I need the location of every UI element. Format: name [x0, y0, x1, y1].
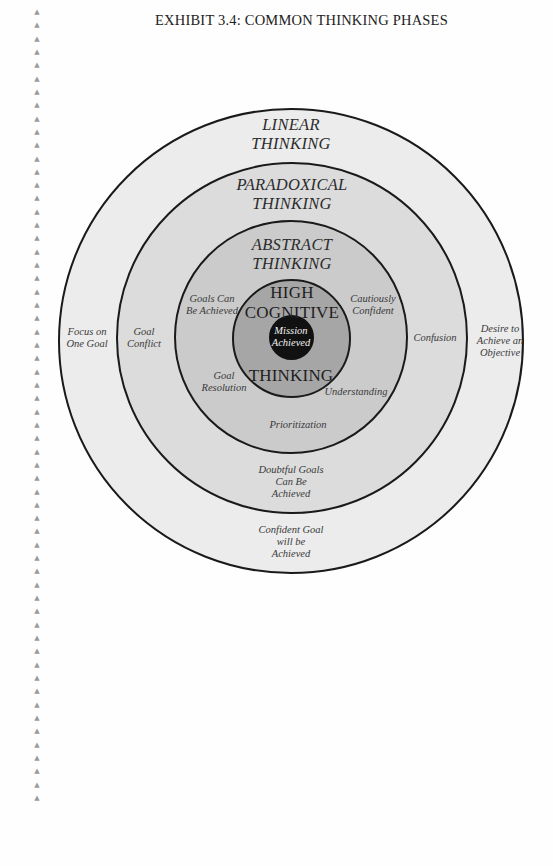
margin-marker-icon: ▲ [33, 727, 41, 735]
margin-marker-icon: ▲ [33, 261, 41, 269]
margin-marker-icon: ▲ [33, 248, 41, 256]
margin-marker-icon: ▲ [33, 115, 41, 123]
margin-marker-icon: ▲ [33, 674, 41, 682]
label-focus-on-one-goal: Focus on One Goal [66, 326, 107, 350]
margin-marker-icon: ▲ [33, 221, 41, 229]
document-page: ▲▲▲▲▲▲▲▲▲▲▲▲▲▲▲▲▲▲▲▲▲▲▲▲▲▲▲▲▲▲▲▲▲▲▲▲▲▲▲▲… [0, 0, 553, 866]
label-high-cognitive: HIGH COGNITIVE [245, 283, 339, 322]
margin-marker-icon: ▲ [33, 381, 41, 389]
margin-marker-icon: ▲ [33, 328, 41, 336]
label-doubtful-goals: Doubtful Goals Can Be Achieved [258, 464, 323, 500]
margin-marker-icon: ▲ [33, 61, 41, 69]
margin-marker-icon: ▲ [33, 794, 41, 802]
margin-marker-icon: ▲ [33, 75, 41, 83]
margin-marker-icon: ▲ [33, 514, 41, 522]
margin-marker-icon: ▲ [33, 88, 41, 96]
margin-marker-icon: ▲ [33, 128, 41, 136]
label-prioritization: Prioritization [269, 419, 326, 431]
margin-marker-icon: ▲ [33, 634, 41, 642]
margin-marker-icon: ▲ [33, 35, 41, 43]
margin-marker-icon: ▲ [33, 341, 41, 349]
margin-marker-icon: ▲ [33, 208, 41, 216]
label-goals-can-be-achieved: Goals Can Be Achieved [186, 293, 238, 317]
margin-marker-icon: ▲ [33, 408, 41, 416]
margin-marker-icon: ▲ [33, 301, 41, 309]
label-thinking-inner: THINKING [249, 366, 334, 386]
label-goal-conflict: Goal Conflict [127, 326, 161, 350]
margin-marker-icon: ▲ [33, 754, 41, 762]
margin-marker-icon: ▲ [33, 314, 41, 322]
margin-marker-icon: ▲ [33, 607, 41, 615]
margin-marker-icon: ▲ [33, 567, 41, 575]
label-mission-achieved: Mission Achieved [272, 325, 310, 349]
margin-marker-icon: ▲ [33, 448, 41, 456]
label-cautiously-confident: Cautiously Confident [350, 293, 396, 317]
margin-marker-icon: ▲ [33, 155, 41, 163]
label-confusion: Confusion [413, 332, 456, 344]
margin-marker-icon: ▲ [33, 687, 41, 695]
margin-marker-icon: ▲ [33, 767, 41, 775]
margin-marker-icon: ▲ [33, 701, 41, 709]
margin-marker-icon: ▲ [33, 421, 41, 429]
label-linear-thinking: LINEAR THINKING [251, 116, 330, 154]
margin-marker-icon: ▲ [33, 594, 41, 602]
margin-marker-icon: ▲ [33, 434, 41, 442]
margin-marker-icon: ▲ [33, 621, 41, 629]
margin-marker-icon: ▲ [33, 354, 41, 362]
margin-marker-icon: ▲ [33, 168, 41, 176]
margin-marker-icon: ▲ [33, 194, 41, 202]
margin-marker-icon: ▲ [33, 141, 41, 149]
margin-marker-icon: ▲ [33, 274, 41, 282]
margin-marker-icon: ▲ [33, 647, 41, 655]
margin-marker-icon: ▲ [33, 394, 41, 402]
margin-marker-icon: ▲ [33, 474, 41, 482]
label-desire-to-achieve: Desire to Achieve an Objective [477, 323, 523, 359]
margin-marker-icon: ▲ [33, 714, 41, 722]
margin-marker-icon: ▲ [33, 488, 41, 496]
label-understanding: Understanding [325, 386, 388, 398]
margin-marker-icon: ▲ [33, 368, 41, 376]
label-abstract-thinking: ABSTRACT THINKING [252, 236, 332, 274]
margin-marker-icon: ▲ [33, 581, 41, 589]
margin-marker-icon: ▲ [33, 527, 41, 535]
margin-marker-icon: ▲ [33, 234, 41, 242]
label-confident-goal-achieved: Confident Goal will be Achieved [258, 524, 323, 560]
margin-marker-icon: ▲ [33, 48, 41, 56]
label-goal-resolution: Goal Resolution [202, 370, 247, 394]
margin-marker-icon: ▲ [33, 741, 41, 749]
margin-marker-icon: ▲ [33, 501, 41, 509]
margin-marker-icon: ▲ [33, 181, 41, 189]
margin-marker-icon: ▲ [33, 101, 41, 109]
margin-marker-icon: ▲ [33, 661, 41, 669]
margin-marker-icon: ▲ [33, 461, 41, 469]
exhibit-title: EXHIBIT 3.4: COMMON THINKING PHASES [0, 12, 553, 29]
margin-marker-icon: ▲ [33, 781, 41, 789]
margin-marker-icon: ▲ [33, 554, 41, 562]
margin-marker-icon: ▲ [33, 541, 41, 549]
label-paradoxical-thinking: PARADOXICAL THINKING [236, 176, 347, 214]
margin-marker-icon: ▲ [33, 288, 41, 296]
